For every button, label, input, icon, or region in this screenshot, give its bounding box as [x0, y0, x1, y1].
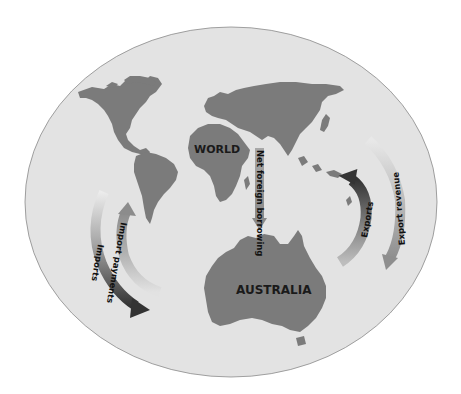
world-label: WORLD — [194, 143, 240, 156]
globe-ellipse — [25, 27, 437, 377]
australia-world-trade-flow-diagram: WORLD AUSTRALIA Imports Import payments … — [0, 0, 461, 394]
australia-label: AUSTRALIA — [236, 283, 312, 297]
net-foreign-borrowing-label: Net foreign borrowing — [255, 150, 265, 256]
